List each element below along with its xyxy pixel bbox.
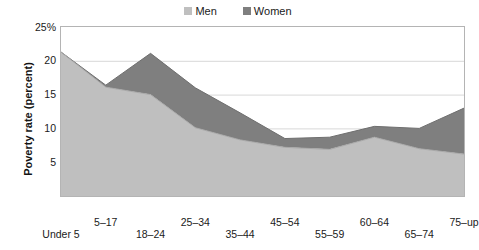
- x-tick-label: 18–24: [136, 228, 165, 240]
- x-tick-label: 35–44: [226, 228, 255, 240]
- x-tick-label: 65–74: [405, 228, 434, 240]
- x-tick-label: 5–17: [94, 216, 117, 228]
- x-tick-label: 55–59: [315, 228, 344, 240]
- x-tick-label: 25–34: [181, 216, 210, 228]
- x-tick-label: 60–64: [360, 216, 389, 228]
- x-tick-label: Under 5: [42, 228, 79, 240]
- x-tick-label: 45–54: [270, 216, 299, 228]
- x-tick-label: 75–up: [449, 216, 478, 228]
